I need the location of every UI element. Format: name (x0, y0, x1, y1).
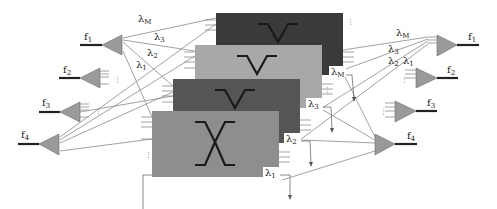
wire-out-f4-lambda3 (323, 110, 375, 140)
fiber-label: f1 (468, 31, 476, 44)
ellipsis: ⋮ (380, 108, 387, 116)
demux-triangle (80, 68, 100, 88)
wire-out-f4-lambdaM (345, 77, 375, 137)
wire-f4-lambda1 (60, 139, 152, 151)
mux-triangle (395, 101, 416, 122)
demux-triangle (102, 35, 122, 55)
mux-triangle (437, 35, 457, 56)
fiber-label: f3 (42, 97, 50, 110)
input-demux-f2: ⋮ f2 (59, 64, 121, 88)
wavelength-switch-diagram: ⋮ λM ⋮ λ3 λ2 (0, 0, 497, 209)
mux-triangle (416, 68, 437, 88)
fiber-label: f2 (63, 64, 71, 77)
ellipsis: ⋮ (95, 108, 102, 116)
fiber-label: f1 (84, 31, 92, 44)
drop-line (301, 141, 311, 164)
lambda-label: λ1 (136, 59, 147, 72)
lambda-label: λ3 (154, 31, 165, 44)
add-line (143, 175, 152, 209)
wire-f1-lambdaM (123, 18, 216, 38)
fiber-label: f2 (447, 64, 455, 77)
demux-triangle (39, 134, 59, 155)
fiber-label: f3 (427, 97, 435, 110)
lambda-label: λ2 (388, 55, 399, 68)
demux-triangle (60, 102, 80, 122)
input-demux-f1: f1 (80, 31, 122, 55)
fiber-label: f4 (407, 130, 416, 143)
lambda-label: λM (138, 13, 152, 26)
lambda-label: λM (396, 27, 410, 40)
ellipsis: ⋮ (145, 151, 152, 159)
fiber-label: f4 (21, 129, 30, 142)
ellipsis: ⋮ (347, 18, 354, 26)
arrow-head (330, 128, 334, 133)
ellipsis: ⋮ (324, 86, 331, 94)
ellipsis: ⋮ (401, 76, 408, 84)
arrow-head (288, 195, 292, 200)
output-mux-f1: f1 (428, 31, 479, 56)
wire-out-f4-lambda1 (282, 151, 375, 180)
wire-out-f4-lambda2 (302, 140, 375, 143)
output-mux-f3: ⋮ f3 (380, 97, 437, 122)
lambda-label: λ1 (403, 55, 414, 68)
arrow-head (352, 97, 356, 102)
switch-plane-lambda1: ⋮ λ1 (141, 111, 292, 209)
arrow-head (309, 162, 313, 167)
ellipsis: ⋮ (114, 76, 121, 84)
input-demux-f4: f4 (18, 129, 59, 155)
diagram-canvas: ⋮ λM ⋮ λ3 λ2 (0, 0, 497, 209)
output-wavelength-labels: λM λ3 λ2 λ1 (388, 27, 414, 68)
mux-triangle (375, 134, 395, 155)
output-mux-f4: f4 (375, 130, 417, 155)
lambda-label: λ2 (147, 47, 158, 60)
